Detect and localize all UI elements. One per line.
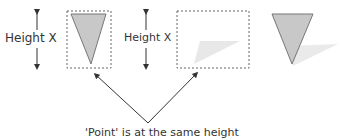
pointer-arrows — [96, 74, 196, 123]
diagram-canvas — [0, 0, 345, 140]
caption: 'Point' is at the same height — [85, 126, 239, 139]
triangle-1 — [71, 14, 106, 64]
dashed-box-2 — [177, 11, 249, 68]
shadow-shape-2 — [194, 41, 240, 64]
height-label-middle: Height X — [124, 31, 171, 44]
height-label-left: Height X — [5, 31, 57, 45]
